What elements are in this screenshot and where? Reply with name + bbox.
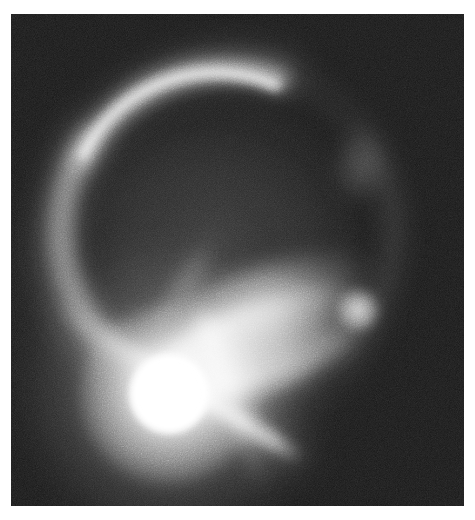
central-source-core [129,354,209,434]
astronomical-image-figure [0,0,475,520]
right-knot [333,132,387,202]
image-field [11,14,464,506]
secondary-blob [335,287,381,333]
